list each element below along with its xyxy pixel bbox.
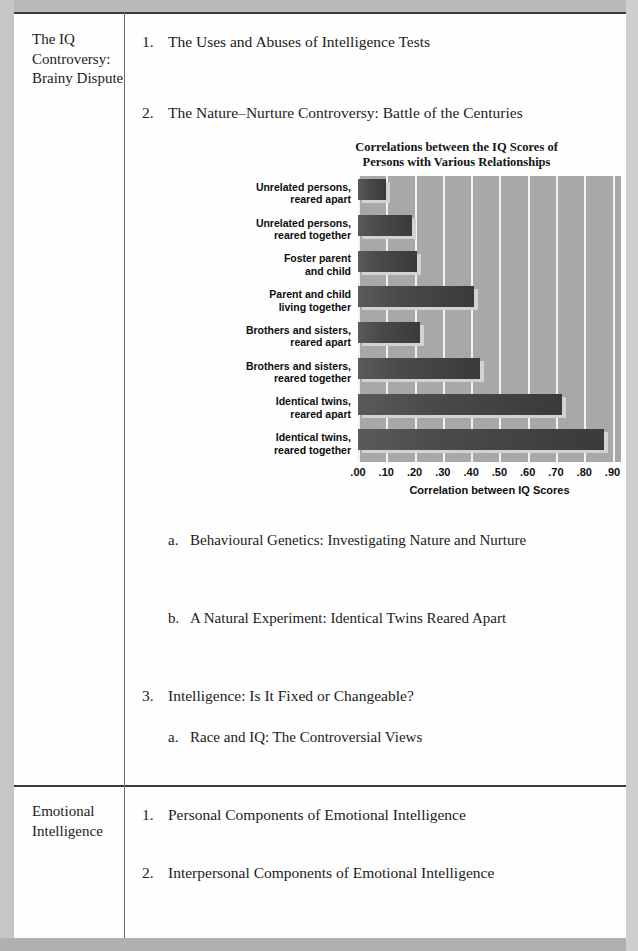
outline-entry-text: The Uses and Abuses of Intelligence Test… [168,32,430,52]
chart-bar [358,215,412,236]
outline-entry-number: a. [168,727,190,747]
chart-category-label: Identical twins,reared apart [181,395,351,420]
page-frame-top [0,0,638,12]
outline-entry-number: a. [168,530,190,550]
section-label-iq-controversy: The IQ Controversy: Brainy Dispute [32,30,128,89]
chart-bar [358,322,420,343]
chart-category-label-line: reared together [181,372,351,385]
chart-bar-row [358,176,621,212]
chart-category-label-line: Unrelated persons, [181,181,351,194]
chart-bar [358,394,562,415]
chart-category-label-line: Brothers and sisters, [181,324,351,337]
chart-category-label-line: Parent and child [181,288,351,301]
chart-bar [358,179,386,200]
outline-entry: a.Behavioural Genetics: Investigating Na… [168,530,526,550]
chart-bar-row [358,391,621,427]
chart-category-label-line: Brothers and sisters, [181,360,351,373]
chart-category-label-line: Identical twins, [181,431,351,444]
chart-bar-row [358,319,621,355]
chart-category-label-line: Identical twins, [181,395,351,408]
outline-entry-text: Personal Components of Emotional Intelli… [168,805,466,825]
outline-entry-number: 1. [142,805,168,825]
chart-category-label-line: reared together [181,444,351,457]
outline-entry-number: 3. [142,686,168,706]
chart-category-label-line: living together [181,301,351,314]
chart-bar-row [358,248,621,284]
chart-title-line-2: Persons with Various Relationships [287,155,626,170]
outline-entry-text: Behavioural Genetics: Investigating Natu… [190,530,526,550]
outline-entry: 2.The Nature–Nurture Controversy: Battle… [142,103,523,123]
chart-category-label: Parent and childliving together [181,288,351,313]
chart-bar-row [358,355,621,391]
chart-category-label: Unrelated persons,reared apart [181,181,351,206]
document-page: The IQ Controversy: Brainy Dispute Emoti… [0,0,638,951]
chart-bar [358,358,480,379]
chart-bar [358,429,604,450]
chart-bar-row [358,212,621,248]
chart-category-label-line: reared apart [181,193,351,206]
chart-x-axis-label: Correlation between IQ Scores [358,484,621,496]
section-label-emotional-intelligence: Emotional Intelligence [32,802,128,841]
chart-category-label-line: Foster parent [181,252,351,265]
chart-category-label-line: and child [181,265,351,278]
outline-table: The IQ Controversy: Brainy Dispute Emoti… [14,12,626,938]
chart-category-label: Identical twins,reared together [181,431,351,456]
outline-entry: 1.The Uses and Abuses of Intelligence Te… [142,32,430,52]
outline-entry-text: Race and IQ: The Controversial Views [190,727,422,747]
chart-bar-row [358,426,621,462]
chart-title-line-1: Correlations between the IQ Scores of [287,140,626,155]
chart-category-label: Brothers and sisters,reared apart [181,324,351,349]
chart-category-label: Unrelated persons,reared together [181,217,351,242]
chart-x-tick-label: .90 [596,466,630,478]
outline-entry-number: b. [168,608,190,628]
chart-bar [358,286,474,307]
chart-category-label-line: Unrelated persons, [181,217,351,230]
outline-entry-text: Interpersonal Components of Emotional In… [168,863,494,883]
chart-bar-row [358,283,621,319]
outline-entry: 1.Personal Components of Emotional Intel… [142,805,466,825]
chart-category-label-line: reared apart [181,408,351,421]
chart-category-label-line: reared together [181,229,351,242]
outline-entry: a.Race and IQ: The Controversial Views [168,727,422,747]
outline-entry: b.A Natural Experiment: Identical Twins … [168,608,506,628]
outline-entries: 1.The Uses and Abuses of Intelligence Te… [124,12,626,938]
correlation-bar-chart: Correlations between the IQ Scores of Pe… [179,140,626,500]
chart-title: Correlations between the IQ Scores of Pe… [287,140,626,170]
chart-category-label: Foster parentand child [181,252,351,277]
outline-entry-number: 2. [142,863,168,883]
outline-entry: 3.Intelligence: Is It Fixed or Changeabl… [142,686,414,706]
page-frame-bottom [0,938,638,951]
chart-category-labels: Unrelated persons,reared apartUnrelated … [179,176,351,462]
outline-entry-text: A Natural Experiment: Identical Twins Re… [190,608,506,628]
outline-entry-number: 1. [142,32,168,52]
chart-category-label-line: reared apart [181,336,351,349]
outline-entry-text: Intelligence: Is It Fixed or Changeable? [168,686,414,706]
outline-entry-text: The Nature–Nurture Controversy: Battle o… [168,103,523,123]
chart-bar [358,251,417,272]
outline-entry: 2.Interpersonal Components of Emotional … [142,863,494,883]
chart-category-label: Brothers and sisters,reared together [181,360,351,385]
page-frame-left [0,0,14,951]
chart-plot-area [358,176,621,462]
outline-entry-number: 2. [142,103,168,123]
